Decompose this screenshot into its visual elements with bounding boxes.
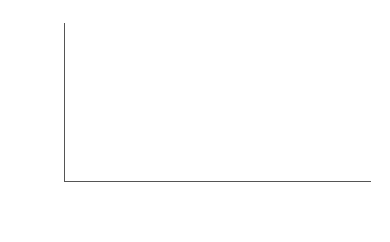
chart-figure [0,0,390,242]
x-axis-tick-labels [0,0,390,242]
